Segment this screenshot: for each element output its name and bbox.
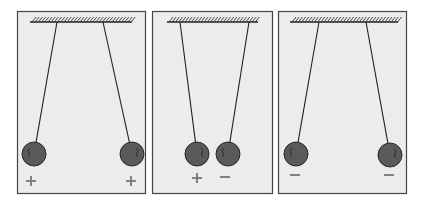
panel-frame [153, 12, 273, 194]
panel-like-negative [279, 12, 407, 194]
charged-ball [22, 142, 46, 166]
charged-ball [185, 142, 209, 166]
charged-ball [284, 142, 308, 166]
panel-like-positive [18, 12, 146, 194]
pendulum-diagram [0, 0, 424, 201]
charged-ball [120, 142, 144, 166]
charged-ball [216, 142, 240, 166]
panel-opposite [153, 12, 273, 194]
charged-ball [378, 143, 402, 167]
